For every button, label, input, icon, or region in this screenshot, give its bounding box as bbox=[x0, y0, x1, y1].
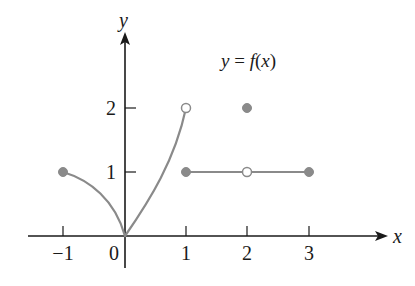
closed-point-2-2 bbox=[243, 104, 252, 113]
x-tick-label: 0 bbox=[109, 242, 119, 264]
y-tick-label: 1 bbox=[106, 161, 116, 183]
x-tick-label: 3 bbox=[304, 242, 314, 264]
y-tick-label: 2 bbox=[106, 97, 116, 119]
x-axis-label: x bbox=[392, 225, 402, 247]
x-tick-label: −1 bbox=[52, 242, 73, 264]
y-axis-label: y bbox=[117, 9, 128, 32]
closed-point-1-1 bbox=[182, 168, 191, 177]
closed-point-neg1-1 bbox=[59, 168, 68, 177]
function-label: y = f(x) bbox=[219, 50, 276, 72]
open-point-1-2 bbox=[182, 104, 191, 113]
open-point-2-1 bbox=[243, 168, 252, 177]
x-tick-label: 1 bbox=[181, 242, 191, 264]
function-graph: x y −1 0 1 2 3 1 2 y = f(x) bbox=[0, 0, 415, 286]
closed-point-3-1 bbox=[305, 168, 314, 177]
x-tick-label: 2 bbox=[242, 242, 252, 264]
